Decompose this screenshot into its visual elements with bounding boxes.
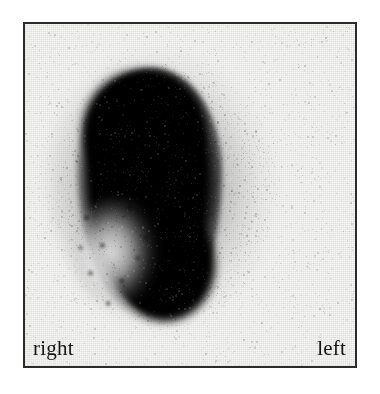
orientation-label-right: right (33, 338, 74, 359)
scintigraphy-image: right left (0, 0, 380, 394)
scan-frame: right left (23, 22, 357, 368)
orientation-label-left: left (317, 338, 346, 359)
photopenic-defect-mottle (69, 190, 167, 316)
uptake-upper-lobe (83, 70, 205, 190)
